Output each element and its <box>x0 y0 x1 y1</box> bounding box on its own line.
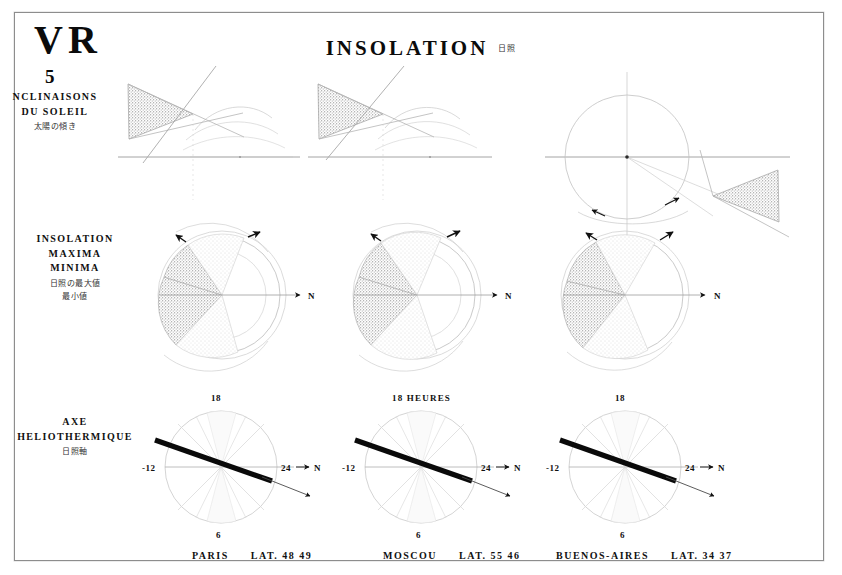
inclinaison-diagram-paris <box>118 66 300 200</box>
heliothermic-clock-moscou: 18 HEURES 6 -12 24 N <box>342 393 521 540</box>
insolation-rose-paris: N <box>158 223 315 371</box>
clock-right-label-paris: 24 <box>281 463 291 473</box>
heliothermic-clock-paris: 18 6 -12 24 N <box>142 393 321 540</box>
clock-left-label-buenos-aires: -12 <box>546 463 560 473</box>
diagram-layer: N N <box>0 0 842 575</box>
insolation-plate: VR 5 INSOLATION日照 NCLINAISONS DU SOLEIL … <box>0 0 842 575</box>
rose-north-label-moscou: N <box>505 291 512 301</box>
clock-top-label-moscou: 18 HEURES <box>392 393 451 403</box>
clock-north-label-paris: N <box>314 463 321 473</box>
clock-left-label-paris: -12 <box>142 463 156 473</box>
clock-top-label-paris: 18 <box>211 393 221 403</box>
clock-north-label-moscou: N <box>514 463 521 473</box>
inclinaison-diagram-moscou <box>308 66 492 200</box>
clock-right-label-moscou: 24 <box>481 463 491 473</box>
clock-right-label-buenos-aires: 24 <box>685 463 695 473</box>
insolation-rose-moscou: N <box>353 223 512 371</box>
rose-north-label-buenos-aires: N <box>714 291 721 301</box>
heliothermic-clock-buenos-aires: 18 6 -12 24 N <box>546 393 725 540</box>
rose-north-label-paris: N <box>308 291 315 301</box>
insolation-rose-buenos-aires: N <box>561 231 721 370</box>
clock-bottom-label-moscou: 6 <box>416 530 421 540</box>
clock-bottom-label-paris: 6 <box>216 530 221 540</box>
clock-bottom-label-buenos-aires: 6 <box>620 530 625 540</box>
clock-north-label-buenos-aires: N <box>718 463 725 473</box>
clock-left-label-moscou: -12 <box>342 463 356 473</box>
clock-top-label-buenos-aires: 18 <box>615 393 625 403</box>
inclinaison-diagram-buenos-aires <box>545 72 790 242</box>
